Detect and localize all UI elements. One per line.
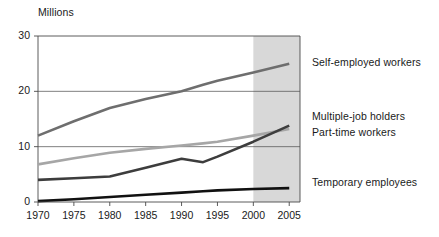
x-tick-label-1970: 1970 bbox=[18, 209, 58, 221]
y-tick-label-20: 20 bbox=[4, 84, 30, 96]
projection-shaded-region bbox=[253, 36, 300, 202]
series-line-multiple-job-holders bbox=[38, 126, 289, 180]
series-line-self-employed-workers bbox=[38, 64, 289, 136]
x-tick-label-1975: 1975 bbox=[54, 209, 94, 221]
x-tick-label-2005: 2005 bbox=[269, 209, 309, 221]
x-tick-label-1995: 1995 bbox=[197, 209, 237, 221]
y-tick-label-10: 10 bbox=[4, 140, 30, 152]
series-line-temporary-employees bbox=[38, 188, 289, 201]
y-tick-label-0: 0 bbox=[4, 195, 30, 207]
series-label-part-time-workers: Part-time workers bbox=[312, 126, 396, 138]
x-tick-label-1990: 1990 bbox=[162, 209, 202, 221]
line-chart: Millions 0102030 19701975198019851990199… bbox=[0, 0, 439, 237]
x-tick-label-1985: 1985 bbox=[126, 209, 166, 221]
series-label-self-employed-workers: Self-employed workers bbox=[312, 56, 421, 68]
series-label-multiple-job-holders: Multiple-job holders bbox=[312, 110, 405, 122]
y-tick-label-30: 30 bbox=[4, 29, 30, 41]
x-tick-label-2000: 2000 bbox=[233, 209, 273, 221]
series-label-temporary-employees: Temporary employees bbox=[312, 176, 417, 188]
x-tick-label-1980: 1980 bbox=[90, 209, 130, 221]
